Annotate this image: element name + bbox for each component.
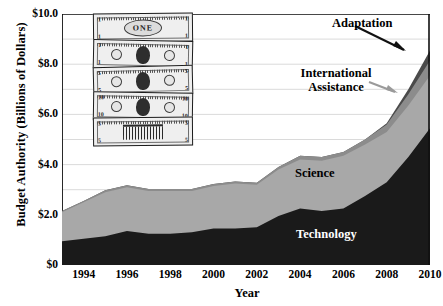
bill-denomination: 1: [98, 42, 101, 48]
annotation-international-assistance: InternationalAssistance: [288, 66, 384, 94]
annotation-technology: Technology: [296, 227, 357, 241]
bill-denomination: 1: [98, 16, 101, 22]
bill-denomination: 10: [98, 94, 104, 100]
bill-denomination: 1: [98, 59, 101, 65]
y-tick-label: $0: [6, 259, 58, 271]
bill-denomination: 5: [185, 120, 188, 126]
x-axis-title: Year: [62, 286, 432, 301]
y-tick-label: $2.0: [6, 209, 58, 221]
bill-denomination: 5: [185, 68, 188, 74]
y-tick-label: $10.0: [6, 8, 58, 20]
dollar-bill: 1111ONE: [93, 12, 193, 42]
bill-denomination: 1: [185, 33, 188, 39]
annotation-science: Science: [295, 166, 335, 180]
bill-denomination: 5: [185, 137, 188, 143]
bill-denomination: 1: [185, 44, 188, 50]
y-tick-label: $4.0: [6, 159, 58, 171]
bill-word: ONE: [133, 23, 153, 32]
annotation-line: Assistance: [288, 80, 384, 94]
annotation-adaptation: Adaptation: [332, 16, 392, 30]
y-tick-label: $6.0: [6, 108, 58, 120]
bill-denomination: 5: [98, 70, 101, 76]
dollar-bills-image: 1111ONE11115555101010105555: [93, 13, 193, 144]
chart-figure: Budget Authority (Billions of Dollars) $…: [0, 0, 443, 306]
y-tick-label: $8.0: [6, 58, 58, 70]
x-tick-label: 2010: [405, 269, 443, 281]
bill-denomination: 10: [182, 96, 188, 102]
y-axis-tick-labels: $0$2.0$4.0$6.0$8.0$10.0: [0, 0, 58, 306]
annotation-line: International: [288, 66, 384, 80]
bill-denomination: 5: [98, 137, 101, 143]
dollar-bill: 5555: [93, 117, 193, 147]
bill-denomination: 1: [185, 16, 188, 22]
bill-denomination: 5: [185, 85, 188, 91]
bill-denomination: 5: [98, 120, 101, 126]
